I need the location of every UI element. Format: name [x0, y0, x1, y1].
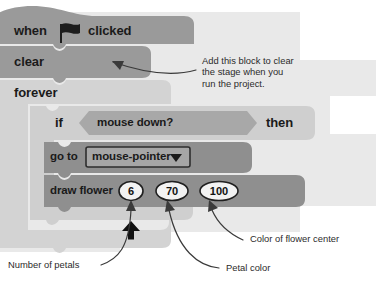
annotation-clear-line-3: run the project. — [202, 78, 294, 89]
forever-left-spine — [0, 104, 28, 230]
if-label: if — [55, 115, 63, 130]
forever-label: forever — [14, 85, 57, 100]
go-to-dropdown-value[interactable]: mouse-pointer — [92, 150, 171, 162]
annotation-center-color-note: Color of flower center — [250, 233, 339, 244]
annotation-clear-line-2: the stage when you — [202, 66, 294, 77]
annotation-clear-note: Add this block to clear the stage when y… — [202, 55, 294, 89]
mouse-down-label: mouse down? — [97, 116, 173, 128]
annotation-clear-line-1: Add this block to clear — [202, 55, 294, 66]
then-label: then — [266, 115, 293, 130]
petal-color-value[interactable]: 70 — [156, 185, 188, 197]
draw-flower-label: draw flower — [50, 184, 113, 196]
when-label: when — [14, 23, 47, 38]
script-diagram: when clicked clear forever if mouse down… — [0, 0, 376, 281]
go-to-label: go to — [50, 150, 78, 162]
center-color-value[interactable]: 100 — [200, 185, 238, 197]
clear-label: clear — [14, 54, 44, 69]
clicked-label: clicked — [88, 23, 131, 38]
annotation-petal-count-note: Number of petals — [8, 259, 79, 270]
annotation-petal-color-note: Petal color — [226, 262, 270, 273]
petal-count-value[interactable]: 6 — [119, 185, 143, 197]
